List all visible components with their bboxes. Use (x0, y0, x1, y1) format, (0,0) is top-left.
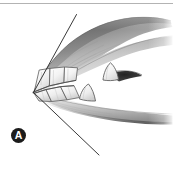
upper-canine (103, 63, 119, 81)
upper-canine-crown (103, 63, 119, 81)
angle-vertex (33, 92, 35, 94)
jaw-illustration (0, 0, 173, 173)
panel-label-badge: A (11, 128, 26, 143)
lower-canine (80, 84, 96, 101)
top-edge-fade (80, 8, 173, 30)
figure-panel: A (0, 0, 173, 173)
lower-canine-crown (80, 84, 96, 101)
